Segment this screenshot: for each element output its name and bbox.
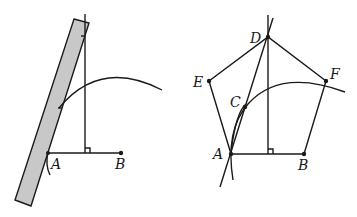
label-d: D [249,30,261,46]
label-a: A [211,146,223,162]
label-e: E [192,74,203,90]
label-b: B [114,156,125,172]
point-a [46,151,50,155]
point-d [266,35,270,39]
right-figure: A B C D E F [192,15,345,187]
point-b [302,152,306,156]
label-a: A [49,156,61,172]
right-angle-mark [268,149,273,154]
label-f: F [329,66,341,82]
point-e [207,79,211,83]
point-f [324,79,328,83]
geometry-diagram: A B A B C D E F [0,0,357,217]
label-b: B [297,157,308,173]
line-ad-extended [220,18,273,187]
small-arc-at-a [47,152,50,175]
label-c: C [230,94,241,110]
construction-arc [59,78,162,108]
right-angle-mark [85,148,90,153]
ruler [15,19,89,206]
left-figure: A B [15,14,162,206]
point-a [229,152,233,156]
point-b [119,151,123,155]
point-c [243,105,247,109]
